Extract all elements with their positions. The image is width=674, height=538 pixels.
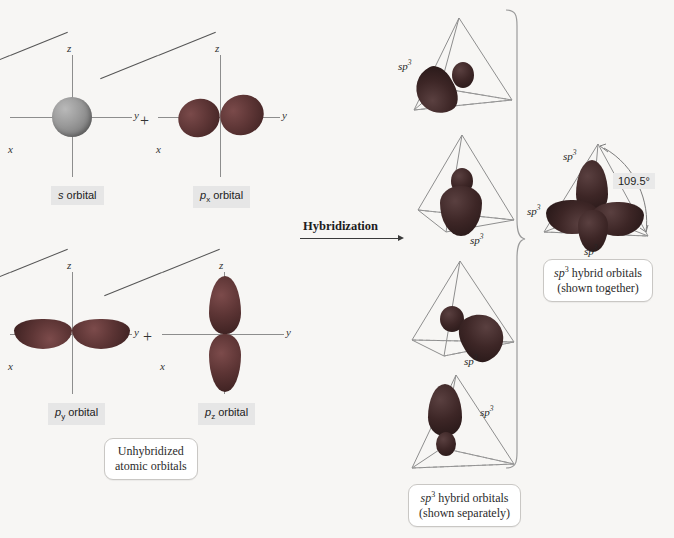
plus-sign-1: +	[140, 112, 149, 130]
hybridization-arrow-label: Hybridization	[303, 219, 378, 234]
axis-label-y: y	[134, 326, 139, 338]
callout-line-1: sp3 hybrid orbitals	[419, 490, 510, 506]
label-py-orbital: py orbital	[48, 403, 105, 425]
x-axis-line-pos	[10, 32, 68, 56]
tetrahedron-4-orbital-minor-lobe	[436, 432, 456, 456]
x-axis-line-neg	[0, 55, 10, 79]
label-s-orbital: s orbital	[51, 186, 104, 205]
py-orbital-lobe-positive	[72, 319, 130, 349]
callout-line-2: (shown separately)	[419, 506, 510, 521]
axis-label-y: y	[286, 326, 291, 338]
callout-unhybridized-atomic-orbitals: Unhybridized atomic orbitals	[104, 438, 198, 480]
axis-label-y: y	[134, 109, 139, 121]
axis-label-z: z	[67, 42, 71, 54]
x-axis-line-pos	[162, 249, 220, 273]
sp3-label-combined-left: sp3	[527, 203, 541, 217]
figure-canvas: z y x s orbital + z y x px orbital z y x…	[0, 0, 674, 538]
tetrahedron-1-orbital-minor-lobe	[452, 62, 474, 88]
plus-sign-2: +	[143, 328, 152, 346]
callout-line-1: Unhybridized	[115, 444, 187, 459]
pz-orbital-lobe-positive	[209, 276, 241, 334]
axes-pz-orbital: z y x	[162, 272, 292, 397]
py-orbital-suffix: orbital	[65, 406, 98, 418]
x-axis-line-pos	[10, 249, 68, 273]
axis-label-y: y	[282, 109, 287, 121]
py-orbital-lobe-negative	[14, 319, 72, 349]
axis-label-z: z	[67, 259, 71, 271]
bond-angle-label: 109.5°	[613, 173, 655, 189]
callout-line-2: atomic orbitals	[115, 459, 187, 474]
sp3-label-combined-bottom: sp3	[584, 243, 598, 257]
sp3-label-tetrahedron-1: sp3	[398, 58, 412, 72]
hybridization-arrow-head	[398, 235, 404, 241]
axes-py-orbital: z y x	[10, 272, 140, 397]
callout-sp3-shown-separately: sp3 hybrid orbitals (shown separately)	[408, 484, 521, 527]
axis-label-x: x	[8, 360, 13, 372]
hybridization-arrow-line	[300, 238, 398, 239]
callout-line-2: (shown together)	[554, 281, 642, 296]
callout-sp3-shown-together: sp3 hybrid orbitals (shown together)	[543, 259, 653, 302]
sp3-label-combined-top: sp3	[563, 148, 577, 162]
sp3-label-tetrahedron-4: sp3	[480, 404, 494, 418]
callout-line-1: sp3 hybrid orbitals	[554, 265, 642, 281]
axis-label-z: z	[215, 42, 219, 54]
axis-label-x: x	[160, 360, 165, 372]
label-pz-orbital: pz orbital	[198, 403, 255, 425]
s-orbital-sphere	[52, 97, 92, 137]
pz-orbital-suffix: orbital	[215, 406, 248, 418]
x-axis-line-pos	[158, 32, 216, 56]
s-orbital-suffix: orbital	[64, 189, 97, 201]
axes-px-orbital: z y x	[158, 55, 288, 180]
px-orbital-suffix: orbital	[210, 189, 243, 201]
axis-label-z: z	[219, 259, 223, 271]
label-px-orbital: px orbital	[193, 186, 250, 208]
sp3-label-tetrahedron-2: sp3	[470, 232, 484, 246]
x-axis-line-neg	[0, 272, 10, 296]
grouping-brace	[500, 8, 526, 470]
axis-label-x: x	[8, 143, 13, 155]
axis-label-x: x	[156, 143, 161, 155]
px-orbital-lobe-positive	[214, 88, 270, 142]
sp3-label-tetrahedron-3: sp3	[464, 353, 478, 367]
pz-orbital-lobe-negative	[209, 334, 241, 392]
axes-s-orbital: z y x	[10, 55, 140, 180]
px-orbital-lobe-negative	[172, 93, 225, 144]
